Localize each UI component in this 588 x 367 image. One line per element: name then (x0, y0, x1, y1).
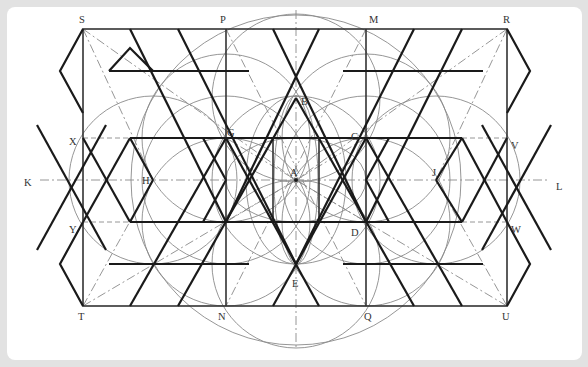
label-u: U (502, 311, 510, 322)
label-g: G (227, 127, 235, 138)
label-y: Y (69, 224, 77, 235)
label-j: J (432, 167, 436, 178)
label-m: M (369, 14, 379, 25)
point-labels: S P M R X G B C V K H A J L Y D W E T N … (24, 14, 562, 322)
center-point-a (294, 178, 298, 182)
label-h: H (142, 175, 150, 186)
label-e: E (292, 278, 298, 289)
label-k: K (24, 177, 32, 188)
label-p: P (220, 14, 226, 25)
label-c: C (351, 131, 358, 142)
label-d: D (351, 227, 359, 238)
label-r: R (503, 14, 510, 25)
label-a: A (290, 167, 298, 178)
label-w: W (511, 224, 521, 235)
label-q: Q (364, 311, 372, 322)
geometric-pattern-diagram: S P M R X G B C V K H A J L Y D W E T N … (0, 0, 588, 367)
label-t: T (78, 311, 85, 322)
label-v: V (511, 140, 519, 151)
label-x: X (69, 136, 77, 147)
label-b: B (301, 96, 308, 107)
label-n: N (218, 311, 226, 322)
label-l: L (556, 181, 562, 192)
label-s: S (79, 14, 85, 25)
